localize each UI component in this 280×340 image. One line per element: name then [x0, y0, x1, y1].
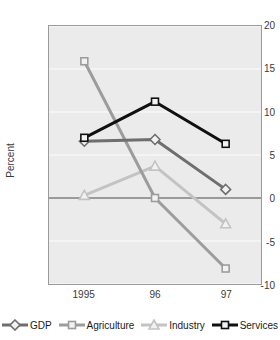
legend-label: Services — [240, 320, 278, 331]
data-point-square — [81, 134, 88, 141]
data-point-square — [152, 98, 159, 105]
chart-container: Percent 20151050-5-10 19959697 GDPAgricu… — [0, 0, 280, 340]
data-point-square — [81, 58, 88, 65]
y-tick-label: -10 — [261, 280, 275, 291]
legend-item-gdp[interactable]: GDP — [2, 319, 52, 331]
y-axis-title: Percent — [5, 131, 16, 191]
legend-item-agriculture[interactable]: Agriculture — [59, 319, 135, 331]
legend-key-square-icon — [212, 319, 238, 331]
legend-label: GDP — [30, 320, 52, 331]
y-tick-label: 5 — [269, 150, 275, 161]
data-point-square — [222, 265, 229, 272]
y-tick-label: -5 — [266, 236, 275, 247]
y-axis: Percent — [0, 0, 48, 340]
y-tick-label: 15 — [264, 63, 275, 74]
plot-svg — [49, 26, 261, 284]
legend-item-industry[interactable]: Industry — [141, 319, 205, 331]
plot-area — [48, 25, 262, 285]
data-point-square — [221, 322, 228, 329]
x-tick-label: 96 — [149, 289, 160, 300]
data-point-triangle — [150, 161, 160, 170]
y-tick-label: 0 — [269, 193, 275, 204]
legend-key-diamond-icon — [2, 319, 28, 331]
y-tick-label: 20 — [264, 20, 275, 31]
data-point-diamond — [10, 320, 20, 330]
legend-item-services[interactable]: Services — [212, 319, 278, 331]
legend-key-square-icon — [59, 319, 85, 331]
legend-label: Industry — [169, 320, 205, 331]
legend-label: Agriculture — [87, 320, 135, 331]
legend-key-triangle-icon — [141, 319, 167, 331]
data-point-square — [152, 195, 159, 202]
data-point-square — [222, 140, 229, 147]
data-point-square — [68, 322, 75, 329]
y-tick-label: 10 — [264, 106, 275, 117]
x-tick-label: 97 — [221, 289, 232, 300]
chart-legend: GDPAgricultureIndustryServices — [0, 316, 280, 334]
x-tick-label: 1995 — [73, 289, 95, 300]
